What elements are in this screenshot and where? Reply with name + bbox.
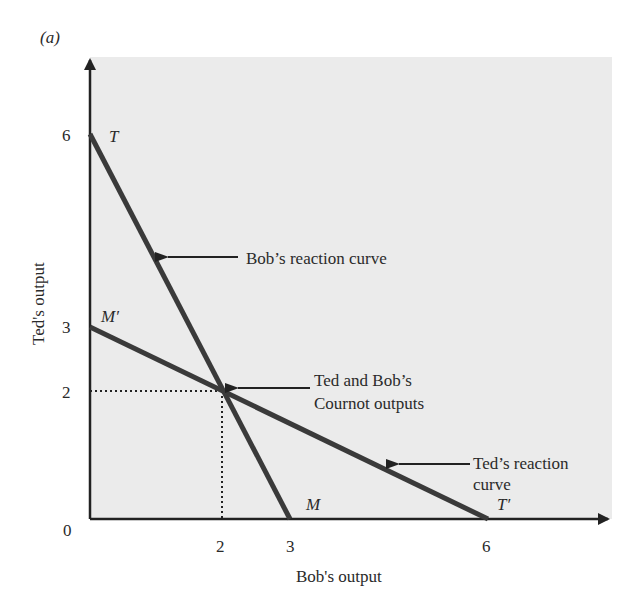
- cournot-annotation-line1: Ted and Bob’s: [314, 371, 412, 390]
- y-tick-2: 2: [62, 383, 71, 402]
- ted-curve-annotation-line1: Ted’s reaction: [473, 454, 569, 473]
- y-axis-title: Ted's output: [29, 262, 48, 345]
- point-label-T: T: [109, 127, 120, 146]
- cournot-annotation-line2: Cournot outputs: [314, 394, 424, 413]
- y-tick-6: 6: [62, 126, 71, 145]
- y-tick-3: 3: [62, 318, 71, 337]
- ted-curve-annotation-line2: curve: [473, 475, 511, 494]
- x-tick-2: 2: [216, 537, 225, 556]
- origin-label: 0: [63, 521, 72, 540]
- cournot-reaction-chart: (a) 6 3 2 0 2 3 6 Bob's output Ted's out…: [0, 0, 643, 613]
- x-axis-title: Bob's output: [296, 567, 382, 586]
- x-tick-6: 6: [482, 537, 491, 556]
- point-label-T-prime: T′: [497, 495, 510, 514]
- bob-curve-annotation: Bob’s reaction curve: [246, 249, 387, 268]
- point-label-M: M: [305, 495, 321, 514]
- panel-label: (a): [40, 28, 60, 47]
- point-label-M-prime: M′: [100, 307, 119, 326]
- x-tick-3: 3: [286, 537, 295, 556]
